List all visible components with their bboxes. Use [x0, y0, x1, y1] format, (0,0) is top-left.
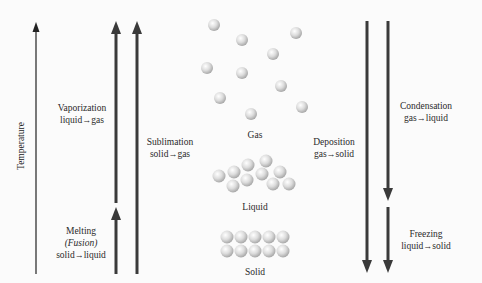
condensation-name: Condensation: [393, 100, 459, 112]
solid-particles: [221, 231, 290, 258]
fusion-alt-name: (Fusion): [48, 237, 114, 249]
gas-particles: [201, 19, 308, 120]
sublimation-name: Sublimation: [142, 136, 198, 148]
deposition-equation: gas→solid: [306, 148, 362, 160]
temperature-axis-label: Temperature: [16, 122, 26, 170]
arrow-right-icon: →: [75, 250, 84, 260]
condensation-label: Condensation gas→liquid: [393, 100, 459, 124]
arrow-right-icon: →: [327, 149, 336, 159]
gas-state-label: Gas: [235, 129, 275, 141]
vaporization-name: Vaporization: [52, 102, 112, 114]
melting-name: Melting: [48, 225, 114, 237]
condensation-arrow: [383, 21, 393, 201]
arrow-right-icon: →: [423, 241, 432, 251]
vaporization-equation: liquid→gas: [52, 114, 112, 126]
deposition-name: Deposition: [306, 136, 362, 148]
freezing-label: Freezing liquid→solid: [393, 228, 459, 252]
arrow-right-icon: →: [82, 115, 91, 125]
vaporization-arrow: [111, 21, 121, 203]
freezing-equation: liquid→solid: [393, 240, 459, 252]
sublimation-equation: solid→gas: [142, 148, 198, 160]
liquid-particles: [213, 155, 296, 193]
sublimation-arrow: [132, 21, 142, 274]
deposition-arrow: [362, 21, 372, 273]
melting-equation: solid→liquid: [48, 249, 114, 261]
deposition-label: Deposition gas→solid: [306, 136, 362, 160]
liquid-state-label: Liquid: [230, 201, 280, 213]
vaporization-label: Vaporization liquid→gas: [52, 102, 112, 126]
arrow-right-icon: →: [417, 113, 426, 123]
temperature-axis-arrow: [33, 22, 40, 274]
freezing-arrow: [383, 207, 393, 273]
sublimation-label: Sublimation solid→gas: [142, 136, 198, 160]
freezing-name: Freezing: [393, 228, 459, 240]
melting-label: Melting (Fusion) solid→liquid: [48, 225, 114, 261]
solid-state-label: Solid: [235, 266, 275, 278]
condensation-equation: gas→liquid: [393, 112, 459, 124]
